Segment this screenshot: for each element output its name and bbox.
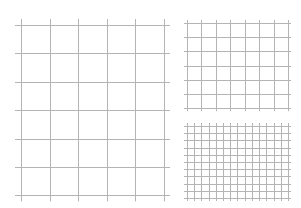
- medium-grid: [184, 20, 291, 111]
- graph-paper-canvas: [0, 0, 301, 208]
- large-grid: [15, 19, 170, 201]
- small-grid: [184, 123, 291, 201]
